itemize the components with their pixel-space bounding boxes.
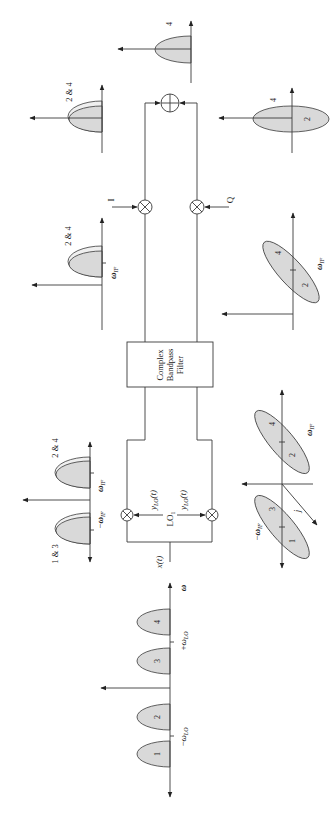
mixer-output-spectrum: 2 & 4 1 & 3 ωIF −ωIF	[23, 438, 106, 564]
filtered-lobe-label: 2 & 4	[63, 226, 73, 246]
filtered-complex-if-subscript: IF	[319, 258, 325, 265]
filtered-complex-if-label: ωIF	[314, 258, 325, 271]
neg-lo-label: −ωLO	[178, 727, 189, 747]
complex-lobe-1-label: 1	[288, 539, 297, 543]
complex-neg-if-subscript: IF	[257, 523, 263, 530]
input-lobe-1-label: 1	[153, 752, 162, 756]
pos-if-subscript: IF	[100, 480, 106, 487]
neg-if-label: −ωIF	[95, 511, 106, 529]
imaginary-axis-label: j	[292, 509, 302, 513]
mixer-output-complex-spectrum: 4 2 3 1 j ωIF −ωIF	[242, 390, 317, 568]
filtered-complex-spectrum: 4 2 ωIF	[222, 213, 327, 330]
pos-lo-label: +ωLO	[178, 631, 189, 651]
upper-lobe-label: 2 & 4	[50, 438, 60, 458]
complex-lobe-4-label: 4	[268, 422, 277, 426]
baseband-complex-lobe-2-label: 2	[303, 117, 312, 121]
downconverter: x(t) LO1 yLO(t) yLO(t)	[121, 387, 218, 569]
filtered-if-subscript: IF	[113, 267, 119, 274]
complex-lobe-2-label: 2	[288, 453, 297, 457]
complex-pos-if-label: ωIF	[304, 424, 315, 437]
complex-pos-if-subscript: IF	[309, 424, 315, 431]
neg-if-subscript: IF	[100, 511, 106, 518]
pos-if-label: ωIF	[95, 480, 106, 493]
lo-output-lower-suffix: (t)	[178, 490, 188, 499]
lo-output-upper-label: yLO(t)	[148, 490, 159, 511]
i-mixer	[138, 200, 152, 214]
neg-lo-subscript: LO	[183, 727, 189, 736]
input-signal-label: x(t)	[154, 556, 164, 570]
lo-label-subscript: 1	[170, 512, 176, 515]
lo-label: LO1	[165, 512, 176, 527]
mixer-1-to-filter-path	[127, 387, 145, 509]
mixer-2-to-filter-path	[197, 387, 212, 509]
complex-if-receiver-diagram: 4 3 2 1 ω +ωLO −ωLO x(t) LO1 yLO(t) yL	[0, 0, 332, 816]
input-lobe-2-label: 2	[153, 715, 162, 719]
baseband-i-lobe-label: 2 & 4	[64, 82, 74, 102]
complex-bandpass-filter: Complex Bandpass Filter	[127, 342, 213, 387]
lo-output-lower-label: yLO(t)	[178, 490, 189, 511]
filtered-spectrum: 2 & 4 ωIF	[32, 218, 119, 330]
i-to-adder-path	[145, 103, 160, 200]
input-lobe-3-label: 3	[153, 659, 162, 663]
baseband-complex-spectrum: 4 2	[219, 88, 329, 153]
output-lobe-label: 4	[165, 22, 174, 26]
adder	[161, 94, 179, 112]
q-reference-label: Q	[225, 196, 235, 203]
q-mixer	[190, 200, 204, 214]
lo-output-upper-suffix: (t)	[148, 490, 158, 499]
input-spectrum: 4 3 2 1 ω +ωLO −ωLO	[101, 583, 189, 797]
filter-label-line-3: Filter	[175, 356, 185, 375]
baseband-i-spectrum: 2 & 4	[30, 82, 102, 153]
filtered-complex-lobe-4-label: 4	[274, 251, 283, 255]
output-lobe	[155, 36, 191, 63]
filtered-if-label: ωIF	[108, 267, 119, 280]
q-to-adder-path	[180, 103, 197, 200]
mixer-1	[121, 509, 133, 521]
iq-demodulator: I Q	[106, 94, 235, 342]
filter-label-line-1: Complex	[155, 349, 165, 381]
baseband-complex-lobe	[253, 106, 329, 132]
filtered-complex-lobe	[255, 234, 326, 310]
filter-label-line-2: Bandpass	[165, 349, 175, 382]
output-spectrum: 4	[118, 21, 191, 83]
lo-label-text: LO	[165, 514, 175, 526]
mixer-2	[206, 509, 218, 521]
input-lobe-4-label: 4	[153, 620, 162, 624]
pos-lo-subscript: LO	[183, 631, 189, 640]
baseband-complex-lobe-4-label: 4	[269, 98, 278, 102]
lower-lobe-label: 1 & 3	[50, 544, 60, 563]
frequency-axis-label: ω	[178, 584, 188, 591]
complex-neg-if-label: −ωIF	[252, 523, 263, 541]
i-reference-label: I	[106, 199, 116, 202]
complex-lobe-3-label: 3	[268, 507, 277, 511]
filtered-complex-lobe-2-label: 2	[301, 283, 310, 287]
